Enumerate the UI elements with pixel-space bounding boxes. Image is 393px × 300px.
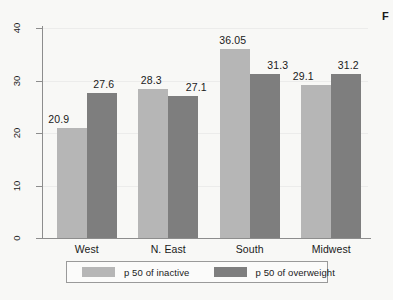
y-axis-tick [36,238,43,239]
y-axis-tick-label: 0 [0,232,34,244]
bar [331,74,361,238]
bar [168,96,198,238]
y-axis-tick-label: 20 [0,127,34,139]
bar-value-label: 31.2 [332,59,364,71]
cropped-caption-text: F [382,9,390,24]
figure-canvas: F 010203040 20.927.628.327.136.0531.329.… [0,0,393,300]
x-axis-category-label: South [210,243,290,255]
legend-swatch-icon-overweight [214,267,247,277]
bar-value-label: 31.3 [262,59,294,71]
plot-area [42,28,368,238]
y-axis-tick-label: 30 [0,75,34,87]
x-axis-category-label: Midwest [291,243,371,255]
x-axis-category-label: West [47,243,127,255]
y-axis-tick-label: 40 [0,22,34,34]
x-axis-line [42,238,371,239]
bar [220,49,250,238]
bar [57,128,87,238]
bar-value-label: 27.1 [180,81,212,93]
bar [301,85,331,238]
legend-entry-overweight: p 50 of overweight [214,267,335,278]
bar-value-label: 36.05 [217,34,249,46]
y-axis-tick-label: 10 [0,180,34,192]
bar-value-label: 28.3 [135,74,167,86]
bar-value-label: 29.1 [287,70,319,82]
bar-value-label: 20.9 [43,113,75,125]
x-axis-category-label: N. East [128,243,208,255]
legend-label-overweight: p 50 of overweight [256,267,335,278]
bar [87,93,117,238]
bar [138,89,168,238]
legend-label-inactive: p 50 of inactive [124,267,190,278]
bar [250,74,280,238]
legend-swatch-icon-inactive [82,267,115,277]
bar-value-label: 27.6 [88,78,120,90]
chart-legend: p 50 of inactive p 50 of overweight [66,261,328,283]
legend-entry-inactive: p 50 of inactive [82,267,190,278]
